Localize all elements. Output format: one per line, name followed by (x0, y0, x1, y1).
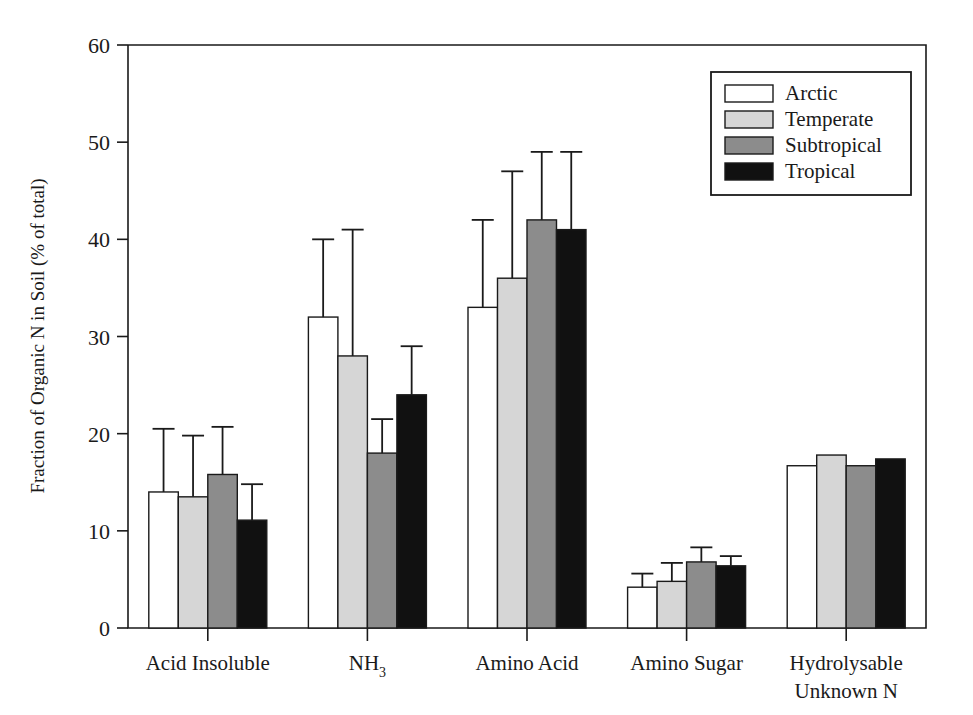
x-axis-label-amino-acid: Amino Acid (475, 651, 579, 675)
x-axis-label-amino-sugar: Amino Sugar (630, 651, 743, 675)
y-axis-title: Fraction of Organic N in Soil (% of tota… (27, 178, 49, 493)
bar-chart: Fraction of Organic N in Soil (% of tota… (0, 0, 973, 715)
bar-temperate-amino-acid (498, 278, 528, 628)
bar-arctic-amino-acid (468, 307, 498, 628)
bar-arctic-acid-insoluble (149, 492, 179, 628)
y-tick-label: 0 (99, 616, 110, 641)
bar-subtropical-amino-acid (527, 220, 557, 628)
bar-subtropical-hydrolysable-unknown-n (846, 466, 876, 628)
legend-swatch-subtropical (725, 137, 773, 154)
legend-label-temperate: Temperate (785, 107, 873, 131)
bar-arctic-nh3 (308, 317, 338, 628)
chart-figure: Fraction of Organic N in Soil (% of tota… (0, 0, 973, 715)
legend-label-tropical: Tropical (785, 159, 856, 183)
legend-label-subtropical: Subtropical (785, 133, 882, 157)
legend-swatch-temperate (725, 111, 773, 128)
bar-temperate-acid-insoluble (178, 497, 208, 628)
x-axis-label-line2: Unknown N (795, 679, 898, 703)
bar-arctic-amino-sugar (628, 587, 658, 628)
bar-tropical-amino-acid (557, 230, 587, 628)
legend-label-arctic: Arctic (785, 81, 837, 105)
y-tick-label: 40 (88, 227, 110, 252)
x-axis-label-acid-insoluble: Acid Insoluble (146, 651, 270, 675)
y-tick-label: 10 (88, 519, 110, 544)
y-axis-title-label: Fraction of Organic N in Soil (% of tota… (27, 178, 49, 493)
y-tick-label: 20 (88, 422, 110, 447)
y-tick-label: 60 (88, 33, 110, 58)
legend-swatch-tropical (725, 163, 773, 180)
bar-temperate-amino-sugar (657, 581, 687, 628)
legend: ArcticTemperateSubtropicalTropical (711, 72, 911, 195)
bar-tropical-amino-sugar (716, 566, 746, 628)
y-tick-label: 30 (88, 325, 110, 350)
bar-subtropical-acid-insoluble (208, 474, 238, 628)
bar-tropical-hydrolysable-unknown-n (876, 459, 906, 628)
bar-subtropical-amino-sugar (687, 562, 717, 628)
bar-tropical-acid-insoluble (237, 520, 266, 628)
x-axis-label-hydrolysable-unknown-n: Hydrolysable (790, 651, 903, 675)
bar-temperate-nh3 (338, 356, 368, 628)
bar-temperate-hydrolysable-unknown-n (817, 455, 847, 628)
bar-arctic-hydrolysable-unknown-n (787, 466, 817, 628)
legend-swatch-arctic (725, 85, 773, 102)
y-tick-label: 50 (88, 130, 110, 155)
bar-subtropical-nh3 (367, 453, 397, 628)
bar-tropical-nh3 (397, 395, 427, 628)
